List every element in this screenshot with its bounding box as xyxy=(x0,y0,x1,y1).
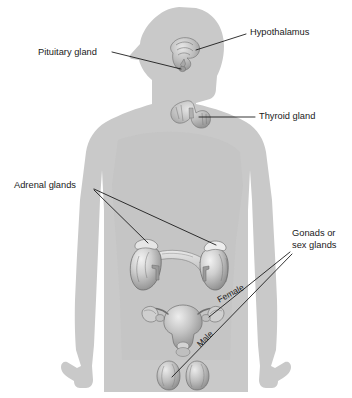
label-thyroid-gland: Thyroid gland xyxy=(259,111,315,121)
diagram-canvas: Hypothalamus Pituitary gland Thyroid gla… xyxy=(0,0,352,398)
endocrine-system-diagram: Hypothalamus Pituitary gland Thyroid gla… xyxy=(0,0,352,398)
label-adrenal-glands: Adrenal glands xyxy=(14,180,76,190)
label-gonads-line-1: Gonads or xyxy=(292,228,335,238)
label-pituitary-gland: Pituitary gland xyxy=(38,47,97,57)
label-gonads-line-2: sex glands xyxy=(292,240,337,250)
label-hypothalamus: Hypothalamus xyxy=(250,27,310,37)
